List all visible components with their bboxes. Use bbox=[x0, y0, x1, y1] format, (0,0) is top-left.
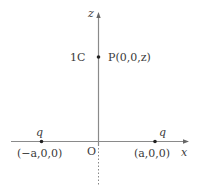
charge-right-label: q bbox=[159, 127, 166, 138]
charge-right-dot bbox=[153, 140, 157, 144]
z-axis-label: z bbox=[88, 8, 94, 19]
x-axis-arrow-icon bbox=[183, 139, 189, 143]
z-axis-arrow-icon bbox=[96, 12, 100, 18]
point-p-dot bbox=[97, 55, 101, 59]
point-p-charge-label: 1C bbox=[70, 52, 85, 63]
origin-label: O bbox=[87, 146, 96, 157]
point-p-label: P(0,0,z) bbox=[108, 52, 151, 63]
charge-left-dot bbox=[40, 140, 44, 144]
charge-left-label: q bbox=[36, 127, 43, 138]
charge-right-coord: (a,0,0) bbox=[134, 148, 170, 159]
x-axis-label: x bbox=[181, 147, 187, 158]
charge-left-coord: (−a,0,0) bbox=[17, 148, 62, 159]
